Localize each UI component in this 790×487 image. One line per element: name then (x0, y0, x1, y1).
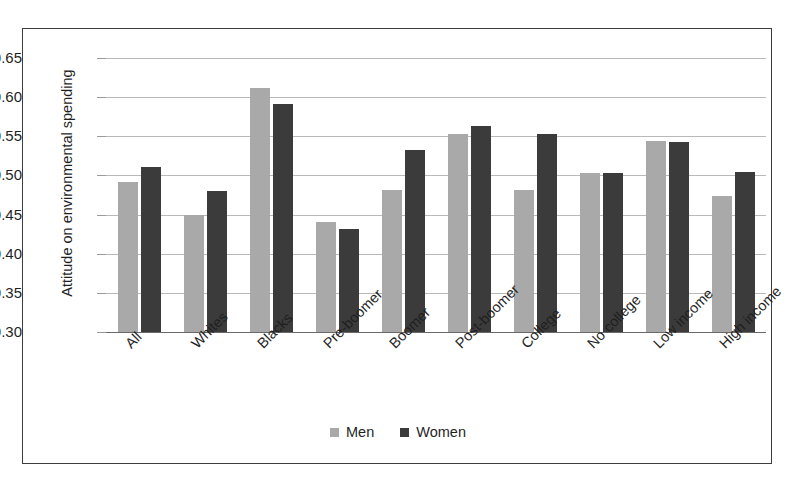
y-axis-title: Attitude on environmental spending (59, 58, 75, 308)
legend-label: Men (346, 424, 374, 440)
y-tick-mark (97, 136, 106, 137)
legend-label: Women (416, 424, 466, 440)
bar-men (646, 141, 666, 332)
bar-men (250, 88, 270, 332)
plot-area: 0.650.600.550.500.450.400.350.30 (106, 58, 766, 332)
bar-group (304, 58, 370, 332)
y-tick-label: 0.30 (0, 323, 22, 340)
bar-men (712, 196, 732, 332)
y-tick-label: 0.35 (0, 284, 22, 301)
bar-men (580, 173, 600, 332)
y-tick-label: 0.55 (0, 127, 22, 144)
bar-men (514, 190, 534, 332)
chart-legend: MenWomen (23, 424, 773, 440)
y-tick-mark (97, 175, 106, 176)
y-tick-mark (97, 215, 106, 216)
legend-swatch-icon (330, 428, 339, 437)
bar-women (273, 104, 293, 332)
bar-women (537, 134, 557, 332)
y-tick-mark (97, 293, 106, 294)
bar-women (471, 126, 491, 332)
y-tick-mark (97, 254, 106, 255)
bar-men (118, 182, 138, 332)
chart-frame: Attitude on environmental spending 0.650… (22, 28, 772, 464)
bar-men (316, 222, 336, 332)
y-tick-mark (97, 58, 106, 59)
bar-men (448, 134, 468, 332)
y-tick-label: 0.45 (0, 206, 22, 223)
bar-series-container (106, 58, 766, 332)
y-tick-label: 0.50 (0, 166, 22, 183)
y-tick-mark (97, 332, 106, 333)
bar-women (141, 167, 161, 332)
y-tick-label: 0.60 (0, 88, 22, 105)
bar-group (106, 58, 172, 332)
bar-men (184, 215, 204, 332)
bar-group (172, 58, 238, 332)
legend-item-men: Men (330, 424, 374, 440)
legend-swatch-icon (400, 428, 409, 437)
bar-group (238, 58, 304, 332)
bar-group (436, 58, 502, 332)
chart-figure: Attitude on environmental spending 0.650… (0, 0, 790, 487)
legend-item-women: Women (400, 424, 466, 440)
y-tick-label: 0.65 (0, 49, 22, 66)
bar-men (382, 190, 402, 332)
bar-group (634, 58, 700, 332)
bar-group (568, 58, 634, 332)
y-tick-label: 0.40 (0, 245, 22, 262)
y-tick-mark (97, 97, 106, 98)
